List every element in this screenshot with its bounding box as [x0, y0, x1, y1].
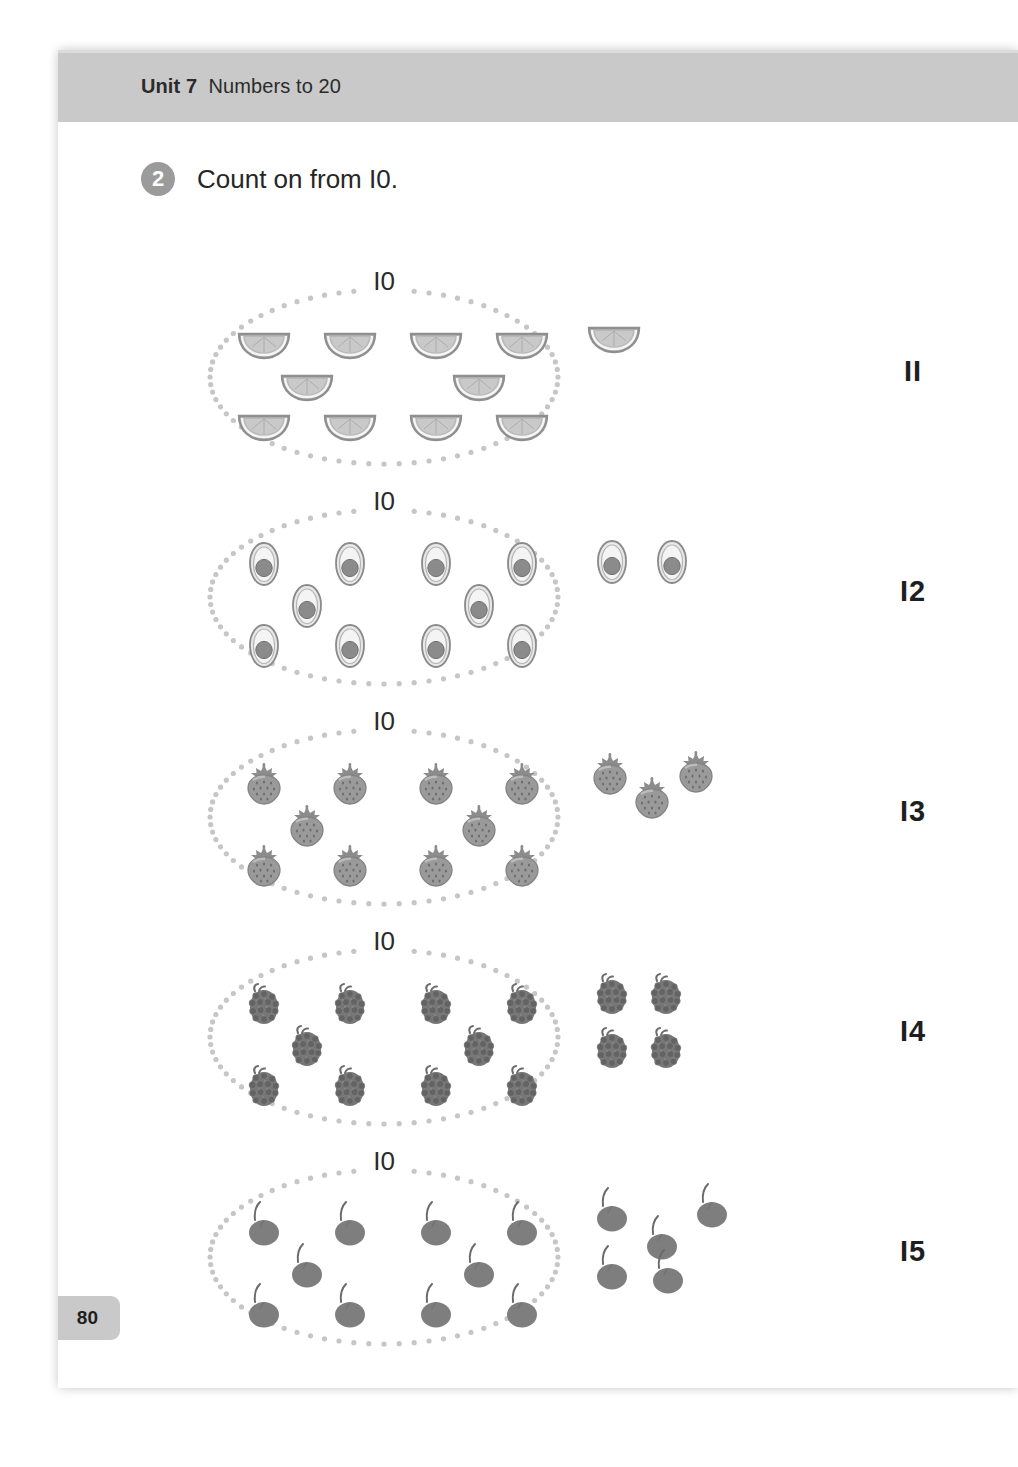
worksheet-page: Unit 7 Numbers to 20 2 Count on from I0. [58, 50, 1018, 1388]
row-avocados: I0 I2 [58, 498, 1018, 698]
group-count-label: I0 [204, 1148, 564, 1174]
header-text: Unit 7 Numbers to 20 [141, 75, 341, 98]
row-oranges: I0 II [58, 278, 1018, 478]
blackberry-icon [647, 972, 685, 1016]
avocado-half-icon [594, 538, 630, 586]
strawberry-icon [631, 776, 673, 820]
row-blackberries: I0 [58, 938, 1018, 1138]
unit-label: Unit 7 [141, 75, 197, 97]
row-strawberries: I0 [58, 718, 1018, 918]
cherry-icon [591, 1244, 633, 1292]
avocado-half-icon [654, 538, 690, 586]
group-of-ten: I0 [204, 1164, 564, 1350]
group-count-label: I0 [204, 928, 564, 954]
group-of-ten: I0 [204, 724, 564, 910]
task-prompt: Count on from I0. [197, 164, 398, 195]
group-count-value: I0 [364, 708, 404, 734]
blackberry-icon [593, 1026, 631, 1070]
grouped-fruit-set [204, 1164, 564, 1350]
strawberry-icon [589, 752, 631, 796]
loose-fruit-set [578, 944, 798, 1130]
grouped-fruit-set [204, 504, 564, 690]
task-number-badge: 2 [141, 162, 175, 196]
row-cherries: I0 I5 [58, 1158, 1018, 1358]
row-answer: II [868, 278, 958, 464]
page-header-band: Unit 7 Numbers to 20 [58, 50, 1018, 122]
grouped-fruit-set [204, 284, 564, 470]
group-count-label: I0 [204, 268, 564, 294]
unit-title: Numbers to 20 [209, 75, 341, 97]
page-number-tab: 80 [58, 1296, 120, 1340]
group-count-label: I0 [204, 488, 564, 514]
group-count-value: I0 [364, 928, 404, 954]
row-answer: I2 [868, 498, 958, 684]
loose-fruit-set [578, 504, 798, 690]
cherry-icon [691, 1182, 733, 1230]
row-answer: I4 [868, 938, 958, 1124]
group-of-ten: I0 [204, 504, 564, 690]
header-highlight-line [58, 50, 1018, 53]
grouped-fruit-set [204, 944, 564, 1130]
group-count-value: I0 [364, 1148, 404, 1174]
row-answer: I5 [868, 1158, 958, 1344]
cherry-icon [591, 1186, 633, 1234]
orange-wedge-icon [586, 321, 642, 355]
blackberry-icon [647, 1026, 685, 1070]
group-count-label: I0 [204, 708, 564, 734]
row-answer: I3 [868, 718, 958, 904]
group-count-value: I0 [364, 488, 404, 514]
group-of-ten: I0 [204, 944, 564, 1130]
strawberry-icon [675, 750, 717, 794]
cherry-icon [647, 1248, 689, 1296]
task-heading: 2 Count on from I0. [141, 162, 398, 196]
group-count-value: I0 [364, 268, 404, 294]
loose-fruit-set [578, 724, 798, 910]
loose-fruit-set [578, 284, 798, 470]
blackberry-icon [593, 972, 631, 1016]
grouped-fruit-set [204, 724, 564, 910]
loose-fruit-set [578, 1164, 798, 1350]
group-of-ten: I0 [204, 284, 564, 470]
